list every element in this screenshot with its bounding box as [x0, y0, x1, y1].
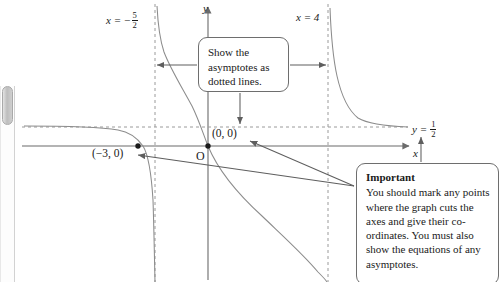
- asymptote-left-fraction: 52: [132, 11, 138, 29]
- asymptote-horizontal-denominator: 2: [430, 130, 436, 139]
- origin-label: O: [196, 150, 205, 162]
- curve-branch-left: [24, 126, 155, 282]
- asymptote-horizontal-equation-label: y = 12: [412, 120, 437, 138]
- asymptote-horizontal-fraction: 12: [430, 120, 436, 138]
- callout-asymptote-line-1: Show the: [208, 45, 288, 60]
- callout-important-note: Important You should mark any points whe…: [356, 163, 499, 282]
- asymptote-left-equation-label: x = −52: [106, 11, 138, 29]
- point-label-x-intercept: (−3, 0): [92, 148, 123, 160]
- callout-asymptote-line-2: asymptotes as: [208, 60, 288, 75]
- point-marker-x-intercept: [135, 143, 140, 148]
- asymptote-left-equation-prefix: x = −: [106, 14, 131, 26]
- asymptote-right-equation-label: x = 4: [296, 12, 319, 23]
- x-axis-label: x: [413, 148, 418, 159]
- scrollbar-thumb[interactable]: [2, 86, 13, 125]
- asymptote-horizontal-equation-prefix: y =: [412, 123, 430, 135]
- arrow-important-to-origin-point: [250, 141, 354, 186]
- callout-asymptote-line-3: dotted lines.: [208, 74, 288, 89]
- callout-asymptote-note: Show the asymptotes as dotted lines.: [198, 37, 289, 92]
- y-axis-label: y: [203, 3, 208, 14]
- figure-canvas: y x O x = −52 x = 4 y = 12 (0, 0) (−3, 0…: [0, 0, 499, 282]
- scrollbar-vertical[interactable]: [0, 86, 15, 282]
- arrow-important-to-x-intercept: [138, 155, 354, 186]
- curve-branch-right: [330, 8, 408, 127]
- point-label-origin: (0, 0): [212, 128, 237, 140]
- callout-important-title: Important: [366, 170, 492, 184]
- point-marker-origin: [205, 143, 210, 148]
- callout-important-body: You should mark any points where the gra…: [366, 185, 492, 271]
- asymptote-left-denominator: 2: [132, 21, 138, 30]
